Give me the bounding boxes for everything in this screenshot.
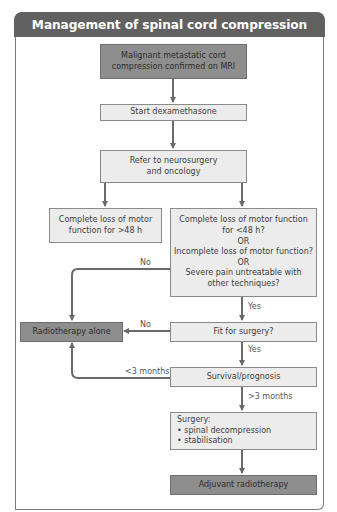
node-text: Fit for surgery? <box>213 327 273 338</box>
node-text: for <48 h? <box>222 226 264 237</box>
node-text: Complete loss of motor <box>59 215 152 226</box>
node-text: • stabilisation <box>177 436 233 447</box>
node-text: Incomplete loss of motor function? <box>174 247 313 258</box>
node-start-dexamethasone: Start dexamethasone <box>100 104 247 121</box>
edge-label-survival-long: >3 months <box>248 392 292 401</box>
edge-label-criteria-yes: Yes <box>248 302 261 311</box>
node-text: Complete loss of motor function <box>179 215 308 226</box>
node-fit-for-surgery: Fit for surgery? <box>170 322 317 342</box>
node-text: Surgery: <box>177 415 210 426</box>
node-complete-loss-over-48h: Complete loss of motor function for >48 … <box>49 208 162 243</box>
node-text: other techniques? <box>207 279 279 290</box>
node-text: Refer to neurosurgery <box>130 156 218 167</box>
node-text: OR <box>238 258 250 269</box>
node-surgery: Surgery: • spinal decompression • stabil… <box>170 412 317 450</box>
node-text: Survival/prognosis <box>207 372 281 383</box>
node-text: Adjuvant radiotherapy <box>199 480 289 491</box>
node-mri-confirmed: Malignant metastatic cord compression co… <box>100 44 247 79</box>
edge-label-criteria-no: No <box>140 258 151 267</box>
node-text: • spinal decompression <box>177 426 271 437</box>
node-radiotherapy-alone: Radiotherapy alone <box>20 322 123 342</box>
node-text: OR <box>238 237 250 248</box>
node-text: compression confirmed on MRI <box>112 62 235 73</box>
node-text: function for >48 h <box>69 226 142 237</box>
edge-label-fit-no: No <box>140 320 151 329</box>
node-text: Malignant metastatic cord <box>121 51 226 62</box>
node-text: Severe pain untreatable with <box>185 268 301 279</box>
node-text: Start dexamethasone <box>130 107 216 118</box>
edge-label-survival-short: <3 months <box>125 367 169 376</box>
node-adjuvant-radiotherapy: Adjuvant radiotherapy <box>170 475 317 495</box>
node-refer: Refer to neurosurgery and oncology <box>100 150 247 183</box>
node-survival-prognosis: Survival/prognosis <box>170 367 317 387</box>
node-text: and oncology <box>147 167 201 178</box>
edge-label-fit-yes: Yes <box>248 345 261 354</box>
node-criteria: Complete loss of motor function for <48 … <box>170 208 317 297</box>
node-text: Radiotherapy alone <box>32 327 110 338</box>
